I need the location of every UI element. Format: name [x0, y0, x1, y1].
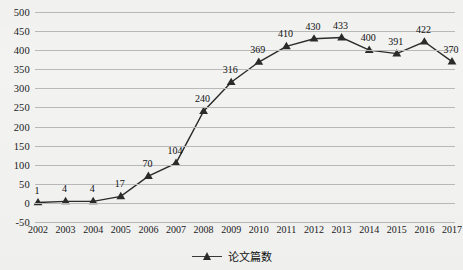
x-axis-tick-label: 2004 — [83, 224, 103, 235]
x-axis-tick-label: 2009 — [221, 224, 241, 235]
gridline — [35, 222, 455, 223]
data-point-marker — [116, 192, 125, 199]
x-axis-tick-label: 2007 — [166, 224, 186, 235]
gridline — [35, 107, 455, 108]
x-axis-tick-label: 2012 — [304, 224, 324, 235]
plot-area: -500501001502002503003504004505002002200… — [35, 12, 455, 222]
data-point-marker — [34, 198, 43, 205]
data-point-marker — [337, 33, 346, 40]
y-axis-tick-label: 450 — [14, 26, 30, 37]
gridline — [35, 203, 455, 204]
gridline — [35, 184, 455, 185]
y-axis-tick-label: 350 — [14, 64, 30, 75]
data-point-label: 4 — [90, 183, 95, 194]
data-point-label: 240 — [195, 93, 210, 104]
gridline — [35, 31, 455, 32]
x-axis-tick-label: 2008 — [194, 224, 214, 235]
y-axis-tick-label: 250 — [14, 102, 30, 113]
y-axis-tick-label: 100 — [14, 159, 30, 170]
gridline — [35, 69, 455, 70]
x-axis-tick-label: 2017 — [442, 224, 462, 235]
data-point-marker — [448, 57, 457, 64]
gridline — [35, 88, 455, 89]
y-axis-tick-label: 0 — [25, 197, 30, 208]
x-axis-tick-label: 2015 — [387, 224, 407, 235]
data-point-label: 433 — [333, 20, 348, 31]
legend-label-lunwen-pianshu: 论文篇数 — [228, 248, 272, 264]
data-point-label: 400 — [361, 32, 376, 43]
data-point-label: 70 — [142, 158, 152, 169]
gridline — [35, 165, 455, 166]
y-axis-tick-label: 150 — [14, 140, 30, 151]
data-point-label: 410 — [278, 28, 293, 39]
y-axis-tick-label: 500 — [14, 7, 30, 18]
x-axis-tick-label: 2011 — [277, 224, 297, 235]
x-axis-tick-label: 2014 — [359, 224, 379, 235]
chart-legend: 论文篇数 — [0, 248, 463, 264]
x-axis-tick-label: 2013 — [332, 224, 352, 235]
gridline — [35, 50, 455, 51]
data-point-label: 4 — [62, 183, 67, 194]
triangle-marker-icon — [192, 251, 222, 262]
data-point-marker — [420, 37, 429, 44]
gridline — [35, 146, 455, 147]
data-point-marker — [310, 34, 319, 41]
data-point-label: 1 — [35, 185, 40, 196]
x-axis-tick-label: 2010 — [249, 224, 269, 235]
y-axis-tick-label: 50 — [19, 178, 30, 189]
data-point-label: 370 — [444, 44, 459, 55]
data-point-label: 17 — [115, 178, 125, 189]
data-point-label: 316 — [223, 64, 238, 75]
x-axis-tick-label: 2002 — [28, 224, 48, 235]
x-axis-tick-label: 2005 — [111, 224, 131, 235]
data-point-label: 391 — [388, 36, 403, 47]
line-chart: -500501001502002503003504004505002002200… — [0, 0, 463, 270]
y-axis-tick-label: 200 — [14, 121, 30, 132]
y-axis-tick-label: 400 — [14, 45, 30, 56]
data-point-label: 104 — [168, 145, 183, 156]
data-point-marker — [227, 78, 236, 85]
gridline — [35, 127, 455, 128]
x-axis-tick-label: 2006 — [138, 224, 158, 235]
data-point-label: 369 — [250, 44, 265, 55]
x-axis-tick-label: 2003 — [56, 224, 76, 235]
x-axis-tick-label: 2016 — [414, 224, 434, 235]
gridline — [35, 12, 455, 13]
data-point-label: 430 — [306, 21, 321, 32]
data-point-marker — [254, 57, 263, 64]
data-point-label: 422 — [416, 24, 431, 35]
y-axis-tick-label: 300 — [14, 83, 30, 94]
